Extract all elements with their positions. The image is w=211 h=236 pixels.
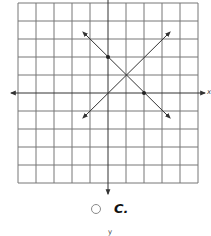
x-axis-label: x <box>207 88 211 96</box>
next-figure-y-label: y <box>108 228 112 236</box>
choice-label: C. <box>114 201 128 216</box>
point-2-0 <box>142 91 146 95</box>
answer-choice-c[interactable]: C. <box>91 201 128 216</box>
point-0-2 <box>106 55 110 59</box>
coordinate-graph <box>0 0 211 200</box>
radio-button[interactable] <box>91 204 101 214</box>
